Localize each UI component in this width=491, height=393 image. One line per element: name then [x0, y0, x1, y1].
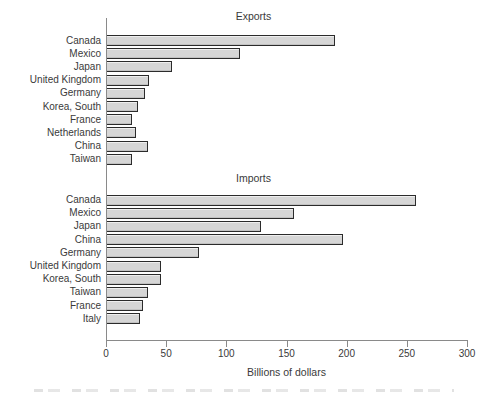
category-label: Korea, South — [0, 101, 101, 112]
category-label: Taiwan — [0, 286, 101, 297]
bar — [106, 48, 240, 59]
x-tick-label: 200 — [329, 348, 365, 359]
category-label: Canada — [0, 35, 101, 46]
category-label: Mexico — [0, 48, 101, 59]
x-tick-label: 0 — [88, 348, 124, 359]
bar — [106, 234, 343, 245]
bar — [106, 261, 161, 272]
x-tick-mark — [407, 341, 408, 347]
bar — [106, 88, 145, 99]
category-label: Italy — [0, 313, 101, 324]
bar — [106, 114, 132, 125]
x-tick-mark — [347, 341, 348, 347]
bar — [106, 127, 136, 138]
x-tick-label: 50 — [148, 348, 184, 359]
category-label: United Kingdom — [0, 74, 101, 85]
x-tick-label: 300 — [449, 348, 485, 359]
category-label: Germany — [0, 87, 101, 98]
bar — [106, 287, 148, 298]
bar — [106, 274, 161, 285]
bar — [106, 154, 132, 165]
bar — [106, 61, 172, 72]
category-label: China — [0, 234, 101, 245]
bar — [106, 101, 138, 112]
y-axis-line — [106, 18, 107, 340]
x-tick-mark — [226, 341, 227, 347]
bar — [106, 75, 149, 86]
x-tick-mark — [166, 341, 167, 347]
bar — [106, 35, 335, 46]
bar — [106, 208, 294, 219]
category-label: Korea, South — [0, 273, 101, 284]
x-tick-mark — [287, 341, 288, 347]
x-tick-label: 150 — [269, 348, 305, 359]
category-label: Netherlands — [0, 127, 101, 138]
bar — [106, 247, 199, 258]
bar — [106, 221, 261, 232]
x-tick-label: 100 — [208, 348, 244, 359]
category-label: United Kingdom — [0, 260, 101, 271]
x-axis-label: Billions of dollars — [106, 366, 467, 378]
category-label: Japan — [0, 220, 101, 231]
bar — [106, 195, 416, 206]
category-label: Japan — [0, 61, 101, 72]
x-tick-mark — [106, 341, 107, 347]
us-trade-bar-chart: Exports CanadaMexicoJapanUnited KingdomG… — [0, 0, 491, 393]
x-tick-mark — [467, 341, 468, 347]
clipped-caption-strip — [34, 389, 454, 392]
bar — [106, 141, 148, 152]
category-label: Canada — [0, 194, 101, 205]
bar — [106, 313, 140, 324]
category-label: France — [0, 114, 101, 125]
x-tick-label: 250 — [389, 348, 425, 359]
category-label: China — [0, 140, 101, 151]
imports-panel-title: Imports — [106, 172, 401, 184]
category-label: Germany — [0, 247, 101, 258]
category-label: Mexico — [0, 207, 101, 218]
category-label: France — [0, 300, 101, 311]
bar — [106, 300, 143, 311]
category-label: Taiwan — [0, 153, 101, 164]
exports-panel-title: Exports — [106, 10, 401, 22]
